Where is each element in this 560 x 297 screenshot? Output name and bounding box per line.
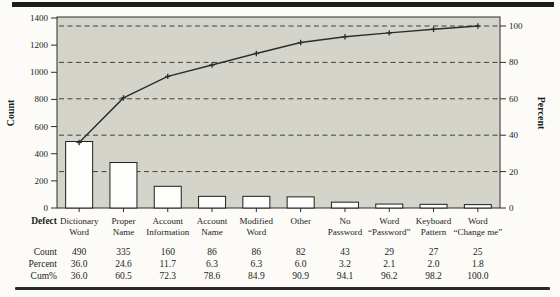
- left-axis-tick-label: 400: [35, 149, 49, 159]
- defect-bar: [66, 142, 93, 209]
- bottom-rule: [15, 287, 550, 290]
- defect-bar: [287, 197, 314, 208]
- left-axis-tick-label: 1200: [30, 40, 49, 50]
- percent-value: 1.8: [446, 259, 510, 270]
- defect-bar: [110, 163, 137, 208]
- defect-bar: [243, 196, 270, 208]
- right-axis-tick-label: 20: [509, 167, 519, 177]
- right-axis-tick-label: 80: [509, 57, 519, 67]
- defect-bar: [420, 204, 447, 208]
- left-axis-tick-label: 1400: [30, 13, 49, 23]
- left-axis-tick-label: 800: [35, 94, 49, 104]
- defect-bar: [464, 205, 491, 208]
- left-axis-title: Count: [5, 99, 16, 126]
- cum-percent-value: 100.0: [446, 271, 510, 282]
- defect-bar: [199, 196, 226, 208]
- count-value: 25: [446, 247, 510, 258]
- defect-name: Word“Change me”: [446, 216, 510, 238]
- pareto-chart: 0200400600800100012001400020406080100Cou…: [0, 0, 560, 214]
- right-axis-title: Percent: [536, 97, 547, 130]
- right-axis-tick-label: 60: [509, 94, 519, 104]
- left-axis-tick-label: 1000: [30, 67, 49, 77]
- right-axis-tick-label: 0: [509, 203, 514, 213]
- left-axis-tick-label: 200: [35, 176, 49, 186]
- defect-bar: [376, 204, 403, 208]
- defect-bar: [331, 202, 358, 208]
- right-axis-tick-label: 40: [509, 130, 519, 140]
- defect-bar: [154, 186, 181, 208]
- left-axis-tick-label: 0: [44, 203, 49, 213]
- pareto-chart-figure: 0200400600800100012001400020406080100Cou…: [0, 0, 560, 297]
- left-axis-tick-label: 600: [35, 122, 49, 132]
- right-axis-tick-label: 100: [509, 21, 523, 31]
